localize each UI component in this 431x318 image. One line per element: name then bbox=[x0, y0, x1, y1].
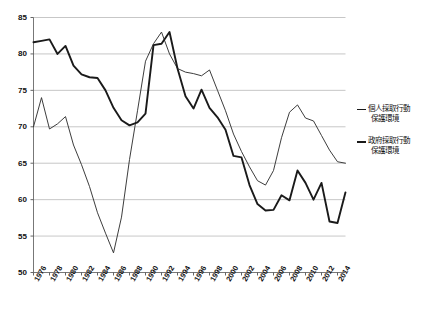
y-tick-label: 75 bbox=[3, 86, 27, 95]
y-tick-label: 85 bbox=[3, 13, 27, 22]
y-tick-label: 80 bbox=[3, 49, 27, 58]
legend-label-government: 政府採取行動 保護環境 bbox=[368, 136, 410, 156]
y-tick-label: 55 bbox=[3, 232, 27, 241]
y-tick-label: 50 bbox=[3, 268, 27, 277]
legend-label-individual: 個人採取行動 保護環境 bbox=[368, 104, 410, 124]
series-line-individual bbox=[34, 32, 346, 253]
legend-entry-individual: 個人採取行動 保護環境 bbox=[357, 104, 431, 124]
chart-legend: 個人採取行動 保護環境 政府採取行動 保護環境 bbox=[357, 104, 431, 168]
legend-entry-government: 政府採取行動 保護環境 bbox=[357, 136, 431, 156]
axes-group bbox=[34, 18, 346, 273]
gridlines-group bbox=[34, 18, 346, 273]
legend-line-swatch-bold-icon bbox=[357, 136, 366, 143]
y-tick-label: 65 bbox=[3, 159, 27, 168]
y-tick-label: 60 bbox=[3, 195, 27, 204]
y-tick-label: 70 bbox=[3, 122, 27, 131]
data-series-group bbox=[34, 32, 346, 253]
legend-line-swatch-thin-icon bbox=[357, 104, 366, 110]
series-line-government bbox=[34, 32, 346, 223]
chart-container: 5055606570758085 19761978198019821984198… bbox=[0, 0, 431, 318]
